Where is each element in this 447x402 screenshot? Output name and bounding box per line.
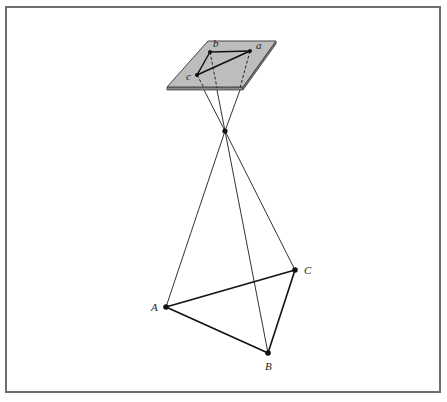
image-point-b xyxy=(208,50,212,54)
ground-point-A xyxy=(163,304,169,310)
label-C: C xyxy=(304,264,312,276)
image-edge-ab xyxy=(210,51,250,52)
ground-edge-CA xyxy=(166,270,295,307)
ray-B xyxy=(225,131,268,353)
image-point-c xyxy=(195,73,199,77)
central-projection-diagram: abcABC xyxy=(0,0,447,402)
label-A: A xyxy=(150,301,158,313)
ray-A xyxy=(166,131,225,307)
ray-c-below-plate xyxy=(204,90,225,131)
ground-edge-AB xyxy=(166,307,268,353)
ground-edge-BC xyxy=(268,270,295,353)
ground-point-B xyxy=(265,350,271,356)
label-a: a xyxy=(256,39,262,51)
image-point-a xyxy=(248,49,252,53)
ray-b-below-plate xyxy=(217,90,225,131)
ray-a-below-plate xyxy=(225,90,240,131)
perspective-center-point xyxy=(222,128,227,133)
label-B: B xyxy=(265,360,272,372)
label-b: b xyxy=(213,37,219,49)
ground-triangle-ABC xyxy=(163,267,298,356)
projection-rays xyxy=(166,90,295,353)
ray-C xyxy=(225,131,295,270)
label-c: c xyxy=(186,70,191,82)
ground-point-C xyxy=(292,267,298,273)
